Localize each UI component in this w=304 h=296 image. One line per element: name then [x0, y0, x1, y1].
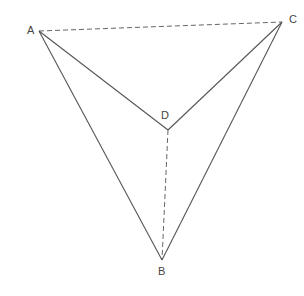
- label-C: C: [289, 13, 297, 25]
- segment-AD: [39, 31, 168, 130]
- segment-DB: [162, 130, 168, 260]
- label-B: B: [158, 265, 165, 277]
- segment-AC: [39, 22, 282, 31]
- segment-CB: [162, 22, 282, 260]
- segment-CD: [168, 22, 282, 130]
- segment-AB: [39, 31, 162, 260]
- label-D: D: [161, 109, 169, 121]
- geometry-diagram: A B C D: [0, 0, 304, 296]
- label-A: A: [27, 24, 35, 36]
